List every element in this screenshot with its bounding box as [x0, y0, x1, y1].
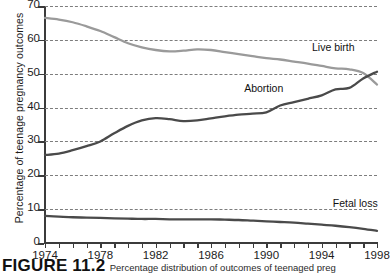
figure-caption-text: Percentage distribution of outcomes of t…	[110, 262, 336, 273]
series-label-abortion: Abortion	[244, 82, 283, 94]
figure-number: FIGURE 11.2	[2, 256, 105, 275]
series-label-fetal-loss: Fetal loss	[333, 197, 378, 209]
series-label-live-birth: Live birth	[312, 41, 355, 53]
series-line-abortion	[45, 72, 377, 155]
series-line-fetal-loss	[45, 216, 377, 231]
figure-caption: FIGURE 11.2 Percentage distribution of o…	[2, 256, 383, 276]
